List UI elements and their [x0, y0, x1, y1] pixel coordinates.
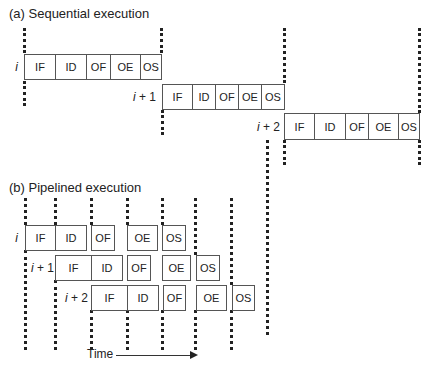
stage-cell: OS: [398, 113, 420, 140]
instruction-label: i: [2, 231, 18, 245]
time-boundary-line: [90, 310, 93, 350]
stage-cell: OS: [232, 285, 255, 311]
stage-cell: IF: [55, 255, 92, 281]
stage-cell: OF: [91, 225, 115, 251]
time-arrow-line: [116, 355, 192, 356]
time-boundary-line: [161, 110, 164, 135]
stage-cell: OS: [261, 84, 285, 110]
time-boundary-line: [126, 310, 129, 350]
time-boundary-line: [418, 28, 421, 113]
stage-cell: IF: [91, 285, 128, 311]
instruction-label: i + 1: [16, 261, 54, 275]
instruction-label: i: [2, 60, 18, 74]
time-boundary-line: [23, 81, 26, 106]
instruction-execution-diagram: (a) Sequential execution i IF ID OF OE O…: [0, 0, 435, 374]
stage-cell: ID: [55, 225, 87, 251]
time-boundary-line: [126, 198, 129, 225]
instruction-label: i + 1: [118, 90, 156, 104]
time-boundary-line: [418, 140, 421, 165]
time-boundary-line: [90, 198, 93, 225]
arrow-right-icon: [190, 351, 198, 359]
stage-cell: OE: [368, 113, 399, 140]
time-boundary-line: [194, 198, 197, 255]
time-boundary-line: [283, 28, 286, 83]
stage-cell: IF: [24, 54, 56, 80]
time-boundary-line: [266, 140, 269, 335]
stage-cell: OF: [345, 113, 369, 140]
stage-cell: ID: [127, 285, 159, 311]
stage-cell: ID: [192, 84, 216, 110]
time-boundary-line: [230, 198, 233, 285]
stage-cell: ID: [314, 113, 346, 140]
stage-cell: OS: [196, 255, 220, 281]
stage-cell: IF: [284, 113, 315, 140]
stage-cell: OS: [140, 54, 162, 80]
stage-cell: ID: [55, 54, 87, 80]
time-boundary-line: [160, 28, 163, 53]
stage-cell: OE: [110, 54, 141, 80]
time-boundary-line: [283, 140, 286, 165]
stage-cell: OF: [215, 84, 239, 110]
stage-cell: OF: [127, 255, 151, 281]
time-boundary-line: [161, 198, 164, 225]
time-boundary-line: [230, 310, 233, 350]
stage-cell: IF: [162, 84, 193, 110]
stage-cell: OE: [196, 285, 227, 311]
stage-cell: OF: [86, 54, 111, 80]
pipelined-title: (b) Pipelined execution: [9, 180, 141, 195]
stage-cell: OE: [127, 225, 158, 251]
time-boundary-line: [161, 310, 164, 350]
time-axis-label: Time: [87, 347, 113, 361]
time-boundary-line: [24, 198, 27, 225]
stage-cell: OF: [163, 285, 186, 311]
time-boundary-line: [54, 198, 57, 225]
sequential-title: (a) Sequential execution: [9, 6, 149, 21]
stage-cell: IF: [25, 225, 56, 251]
time-boundary-line: [194, 310, 197, 350]
time-boundary-line: [23, 28, 26, 53]
stage-cell: ID: [91, 255, 123, 281]
instruction-label: i + 2: [240, 120, 280, 134]
instruction-label: i + 2: [50, 291, 88, 305]
stage-cell: OS: [162, 225, 186, 251]
stage-cell: OE: [238, 84, 262, 110]
stage-cell: OE: [162, 255, 191, 281]
